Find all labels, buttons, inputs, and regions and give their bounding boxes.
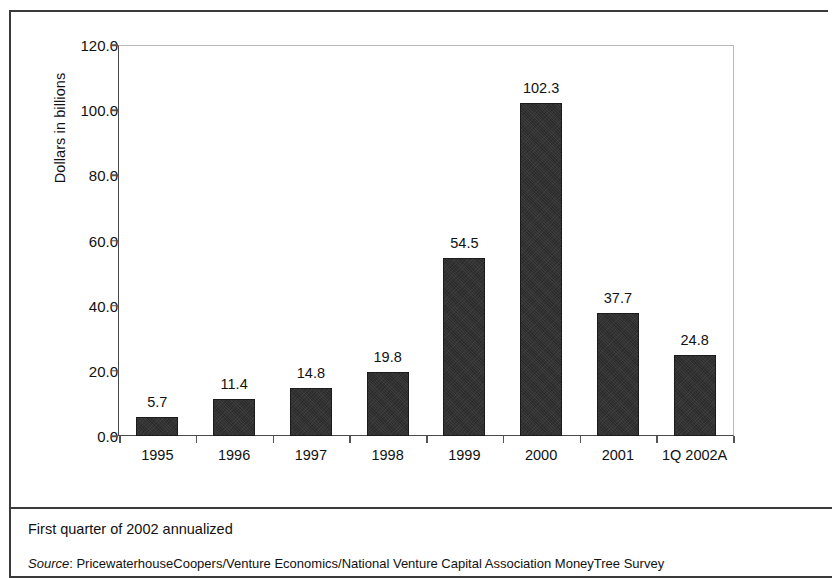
y-axis-tick-mark [111, 435, 118, 437]
bar-item: 37.7 [580, 45, 657, 436]
y-axis-tick-label: 120.0 [56, 37, 118, 54]
bar-value-label: 19.8 [349, 349, 426, 365]
x-axis-tick-label: 1Q 2002A [656, 447, 733, 463]
y-axis-tick-label: 60.0 [56, 232, 118, 249]
x-axis-tick-mark [503, 436, 505, 443]
bar-rect [367, 372, 409, 437]
bar-rect [597, 313, 639, 436]
x-axis-tick-label: 1998 [349, 447, 426, 463]
x-axis-tick-mark [580, 436, 582, 443]
x-axis-tick-label: 1999 [426, 447, 503, 463]
bar-rect [136, 417, 178, 436]
bar-series: 5.711.414.819.854.5102.337.724.8 [119, 45, 733, 436]
bar-item: 54.5 [426, 45, 503, 436]
y-axis-tick-mark [111, 305, 118, 307]
x-axis-tick-label: 1996 [196, 447, 273, 463]
y-axis-tick-label: 100.0 [56, 102, 118, 119]
y-axis-tick-label: 0.0 [56, 428, 118, 445]
y-axis-tick-marks [111, 45, 119, 436]
bar-value-label: 11.4 [196, 376, 273, 392]
bar-item: 19.8 [349, 45, 426, 436]
y-axis-tick-mark [111, 44, 118, 46]
scanned-page: Dollars in billions 120.0100.080.060.040… [0, 0, 832, 578]
bar-rect [520, 103, 562, 436]
x-axis-tick-mark [426, 436, 428, 443]
footer-divider [11, 507, 832, 509]
bar-rect [290, 388, 332, 436]
y-axis-tick-mark [111, 109, 118, 111]
bar-value-label: 37.7 [580, 290, 657, 306]
bar-item: 14.8 [273, 45, 350, 436]
y-axis-tick-mark [111, 175, 118, 177]
bar-item: 24.8 [656, 45, 733, 436]
x-axis-tick-marks [119, 436, 733, 444]
bar-rect [674, 355, 716, 436]
bar-value-label: 5.7 [119, 394, 196, 410]
y-axis-tick-label: 40.0 [56, 297, 118, 314]
bar-value-label: 24.8 [656, 332, 733, 348]
bar-value-label: 54.5 [426, 235, 503, 251]
source-text: PricewaterhouseCoopers/Venture Economics… [76, 556, 664, 571]
x-axis-tick-label: 2001 [580, 447, 657, 463]
x-axis-tick-mark [349, 436, 351, 443]
bar-value-label: 14.8 [273, 365, 350, 381]
bar-rect [213, 399, 255, 436]
x-axis-tick-label: 2000 [503, 447, 580, 463]
x-axis-tick-label: 1995 [119, 447, 196, 463]
y-axis-tick-mark [111, 240, 118, 242]
y-axis-tick-mark [111, 370, 118, 372]
x-axis-tick-labels: 19951996199719981999200020011Q 2002A [119, 447, 733, 463]
x-axis-tick-label: 1997 [273, 447, 350, 463]
source-label: Source [28, 556, 69, 571]
bar-item: 11.4 [196, 45, 273, 436]
y-axis-tick-label: 80.0 [56, 167, 118, 184]
bar-item: 102.3 [503, 45, 580, 436]
bar-item: 5.7 [119, 45, 196, 436]
x-axis-tick-mark [656, 436, 658, 443]
x-axis-tick-mark [196, 436, 198, 443]
bar-chart: Dollars in billions 120.0100.080.060.040… [0, 0, 832, 505]
bar-value-label: 102.3 [503, 80, 580, 96]
x-axis-tick-mark [733, 436, 735, 443]
x-axis-tick-mark [273, 436, 275, 443]
x-axis-tick-mark [119, 436, 121, 443]
y-axis-tick-labels: 120.0100.080.060.040.020.00.0 [48, 45, 118, 436]
y-axis-tick-label: 20.0 [56, 362, 118, 379]
bar-rect [443, 258, 485, 436]
source-line: Source: PricewaterhouseCoopers/Venture E… [28, 556, 664, 571]
footnote-text: First quarter of 2002 annualized [28, 521, 233, 537]
